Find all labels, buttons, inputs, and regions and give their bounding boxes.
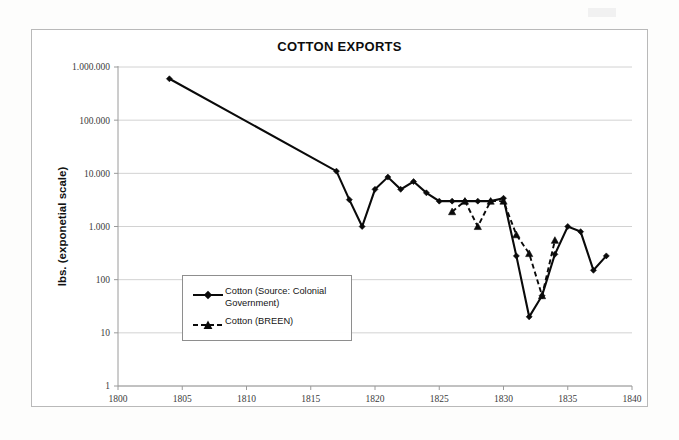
legend-symbol-triangle-dashed	[191, 317, 225, 329]
y-tick-label: 1	[105, 381, 110, 391]
y-tick-label: 100.000	[79, 116, 110, 126]
chart-page: COTTON EXPORTS 1101001.00010.000100.0001…	[0, 0, 679, 440]
data-point	[475, 198, 481, 204]
x-tick-label: 1800	[109, 394, 128, 404]
chart-legend: Cotton (Source: Colonial Government) Cot…	[182, 275, 352, 341]
data-point	[513, 253, 519, 259]
legend-item-breen: Cotton (BREEN)	[191, 316, 293, 329]
y-tick-label: 1.000.000	[72, 62, 110, 72]
x-tick-label: 1835	[558, 394, 577, 404]
data-point	[551, 237, 558, 244]
legend-label: Cotton (BREEN)	[225, 316, 293, 328]
chart-frame: COTTON EXPORTS 1101001.00010.000100.0001…	[31, 29, 648, 407]
x-tick-label: 1820	[366, 394, 385, 404]
series-line-1	[452, 201, 555, 296]
y-tick-label: 10	[101, 328, 111, 338]
x-tick-label: 1825	[430, 394, 449, 404]
y-tick-label: 1.000	[89, 222, 111, 232]
data-point	[513, 231, 520, 238]
chart-plot: 1101001.00010.000100.0001.000.0001800180…	[32, 30, 649, 408]
y-axis-title: lbs. (exponetial scale)	[56, 167, 68, 287]
data-point	[578, 229, 584, 235]
y-tick-label: 10.000	[84, 169, 110, 179]
x-tick-label: 1815	[301, 394, 320, 404]
data-point	[449, 198, 455, 204]
legend-label: Cotton (Source: Colonial Government)	[225, 286, 351, 309]
x-tick-label: 1830	[494, 394, 513, 404]
x-tick-label: 1810	[237, 394, 256, 404]
legend-item-colonial-government: Cotton (Source: Colonial Government)	[191, 286, 351, 309]
x-tick-label: 1805	[173, 394, 192, 404]
x-tick-label: 1840	[623, 394, 642, 404]
scan-artifact	[588, 8, 616, 17]
legend-symbol-diamond-line	[191, 287, 225, 299]
y-tick-label: 100	[96, 275, 111, 285]
